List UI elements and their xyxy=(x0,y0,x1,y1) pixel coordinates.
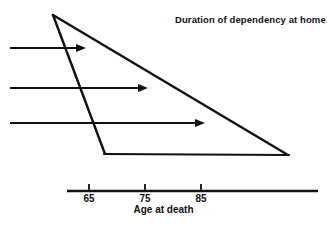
chart-canvas xyxy=(0,0,327,227)
lifeline-arrows-group xyxy=(10,44,205,127)
x-axis-tick-label-75: 75 xyxy=(139,194,150,204)
x-axis-tick-label-85: 85 xyxy=(195,194,206,204)
triangle-hypotenuse-line xyxy=(53,15,288,155)
lifeline-arrow-3 xyxy=(10,119,205,127)
lifeline-arrow-1-head xyxy=(76,44,86,52)
figure-container: Duration of dependency at home 65 75 85 … xyxy=(0,0,327,227)
chart-title: Duration of dependency at home xyxy=(175,15,326,25)
lifeline-arrow-3-head xyxy=(195,119,205,127)
lifeline-arrow-1 xyxy=(10,44,86,52)
x-axis-title: Age at death xyxy=(0,205,327,215)
lifeline-arrow-2-head xyxy=(138,84,148,92)
x-axis xyxy=(67,184,318,191)
x-axis-tick-label-65: 65 xyxy=(83,194,94,204)
dependency-triangle xyxy=(53,15,289,155)
triangle-left-line xyxy=(53,15,105,154)
triangle-base-line xyxy=(104,154,289,155)
